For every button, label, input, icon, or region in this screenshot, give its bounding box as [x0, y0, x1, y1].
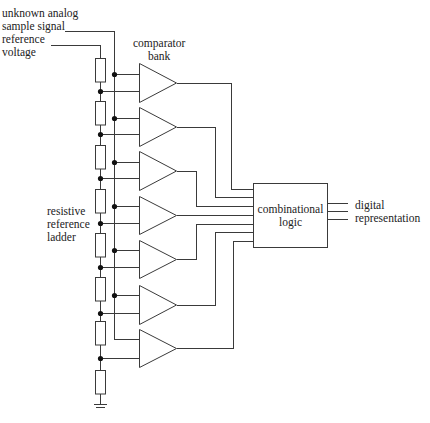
comparator-5	[140, 241, 177, 279]
comparator-3	[140, 152, 177, 191]
resistor-4	[96, 190, 106, 214]
label-reference: reference	[2, 33, 45, 45]
label-unknown-analog: unknown analog	[2, 7, 79, 20]
ground-icon	[94, 405, 107, 408]
label-sample-signal: sample signal	[2, 20, 65, 33]
digital-outputs: digital representation	[328, 199, 421, 225]
comparator-2	[140, 108, 177, 147]
resistor-8	[96, 371, 106, 395]
resistor-1	[96, 59, 106, 83]
label-bank: bank	[148, 50, 171, 62]
resistor-ladder	[94, 59, 107, 408]
label-voltage: voltage	[2, 46, 36, 59]
label-reference-ladder: reference	[47, 218, 90, 230]
resistor-6	[96, 278, 106, 302]
comparator-1	[140, 64, 177, 103]
comparator-outputs	[177, 84, 254, 349]
resistor-3	[96, 146, 106, 170]
resistor-5	[96, 234, 106, 258]
label-digital: digital	[355, 199, 384, 212]
ladder-taps	[98, 89, 139, 361]
input-labels: unknown analog sample signal reference v…	[2, 7, 79, 59]
label-comparator: comparator	[133, 37, 186, 50]
comparator-4	[140, 197, 177, 235]
label-ladder: ladder	[47, 231, 76, 243]
label-combinational: combinational	[258, 203, 324, 215]
signal-taps	[112, 72, 139, 298]
comparator-6	[140, 286, 177, 325]
label-resistive: resistive	[47, 205, 85, 217]
label-logic: logic	[279, 216, 302, 229]
comparator-bank	[140, 64, 177, 368]
resistor-7	[96, 322, 106, 346]
flash-adc-diagram: unknown analog sample signal reference v…	[0, 0, 430, 423]
label-representation: representation	[355, 212, 420, 225]
comparator-7	[140, 330, 177, 368]
combinational-logic-block: combinational logic	[254, 184, 328, 248]
resistor-2	[96, 102, 106, 126]
reference-wire	[51, 46, 101, 59]
